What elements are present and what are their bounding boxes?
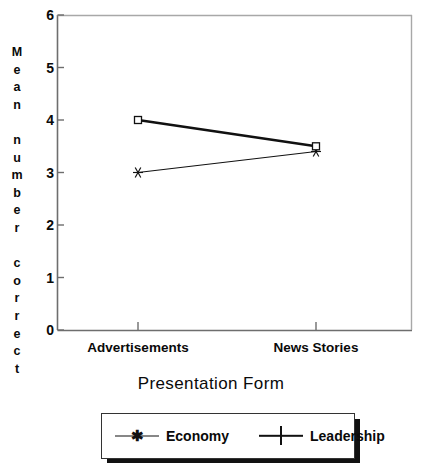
x-tick-marks: [138, 322, 316, 330]
chart-legend: ✱ Economy Leadership: [101, 413, 355, 459]
plot-area: [0, 0, 422, 472]
legend-label-economy: Economy: [166, 428, 229, 444]
marker-square: [135, 117, 142, 124]
marker-asterisk: [133, 168, 143, 178]
axis-frame: [58, 15, 413, 331]
legend-item-leadership[interactable]: Leadership: [259, 428, 385, 444]
x-axis-title: Presentation Form: [0, 374, 422, 394]
asterisk-marker-icon: ✱: [115, 429, 159, 443]
y-tick-marks: [58, 15, 65, 330]
line-chart-figure: Meannumbercorrect 6543210: [0, 0, 422, 472]
series-economy: [133, 147, 321, 178]
x-tick-label-advertisements: Advertisements: [87, 340, 188, 355]
series-leadership: [135, 117, 320, 150]
legend-label-leadership: Leadership: [310, 428, 385, 444]
marker-square: [313, 143, 320, 150]
square-marker-icon: [259, 429, 303, 443]
legend-item-economy[interactable]: ✱ Economy: [115, 428, 229, 444]
x-tick-label-news-stories: News Stories: [274, 340, 359, 355]
